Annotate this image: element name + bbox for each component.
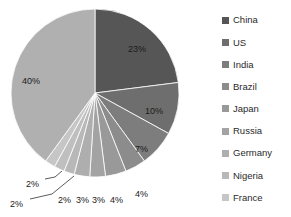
pie-data-label: 10% (145, 107, 163, 116)
legend-item-label: India (233, 60, 254, 70)
legend-item-japan[interactable]: Japan (222, 98, 291, 120)
pie-data-label: 40% (22, 77, 40, 86)
pie-data-label: 2% (10, 200, 23, 209)
legend-item-brazil[interactable]: Brazil (222, 76, 291, 98)
legend-item-label: China (233, 15, 258, 25)
pie-data-label: 4% (135, 190, 148, 199)
pie-slice-group (11, 9, 179, 177)
pie-data-label: 4% (110, 196, 123, 205)
legend-swatch-icon (222, 150, 229, 157)
legend-swatch-icon (222, 194, 229, 201)
legend-swatch-icon (222, 83, 229, 90)
legend-item-label: Russia (233, 126, 262, 136)
legend-item-china[interactable]: China (222, 9, 291, 31)
legend-item-russia[interactable]: Russia (222, 120, 291, 142)
legend-item-us[interactable]: US (222, 31, 291, 53)
legend-swatch-icon (222, 39, 229, 46)
legend-item-label: Nigeria (233, 171, 263, 181)
legend-item-label: Japan (233, 104, 259, 114)
legend-item-label: US (233, 38, 246, 48)
legend-swatch-icon (222, 172, 229, 179)
chart-legend: ChinaUSIndiaBrazilJapanRussiaGermanyNige… (222, 9, 291, 209)
legend-swatch-icon (222, 105, 229, 112)
legend-swatch-icon (222, 17, 229, 24)
legend-swatch-icon (222, 128, 229, 135)
legend-item-nigeria[interactable]: Nigeria (222, 164, 291, 186)
pie-data-label: 3% (76, 196, 89, 205)
legend-item-france[interactable]: France (222, 187, 291, 209)
legend-item-germany[interactable]: Germany (222, 142, 291, 164)
legend-item-label: Brazil (233, 82, 257, 92)
pie-chart-figure: 23%10%7%4%4%3%3%2%2%2%40% ChinaUSIndiaBr… (0, 0, 291, 217)
leader-line-nigeria (45, 171, 62, 179)
pie-data-label: 23% (128, 45, 146, 54)
pie-data-label: 7% (135, 145, 148, 154)
pie-data-label: 2% (26, 180, 39, 189)
legend-swatch-icon (222, 61, 229, 68)
pie-data-label: 2% (58, 196, 71, 205)
pie-data-label: 3% (92, 196, 105, 205)
legend-item-india[interactable]: India (222, 53, 291, 75)
pie-plot-area: 23%10%7%4%4%3%3%2%2%2%40% (0, 0, 200, 217)
legend-item-label: Germany (233, 148, 272, 158)
legend-item-label: France (233, 193, 263, 203)
